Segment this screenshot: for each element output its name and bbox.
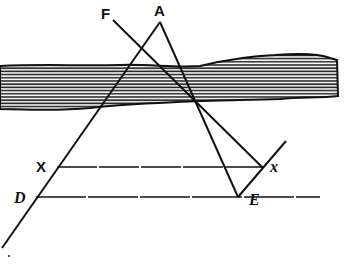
- river-band: [0, 54, 338, 110]
- label-X: X: [36, 158, 46, 175]
- label-A: A: [154, 2, 165, 19]
- label-E: E: [248, 191, 260, 208]
- line-a-e: [160, 22, 238, 197]
- stray-mark: [8, 255, 10, 257]
- label-F: F: [101, 5, 110, 22]
- label-x: x: [269, 158, 278, 175]
- label-D: D: [13, 189, 26, 206]
- line-a-left: [2, 22, 160, 248]
- river-diagram: F A X D x E: [0, 0, 349, 267]
